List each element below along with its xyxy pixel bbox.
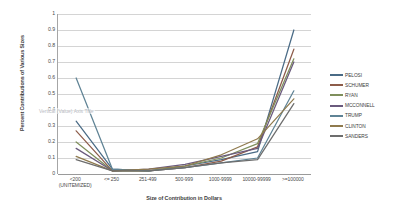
legend-item-mcconnell[interactable]: MCCONNELL — [330, 101, 394, 111]
x-tick-label: 10000-99999 — [238, 176, 274, 182]
y-tick-label: 0.8 — [33, 43, 55, 48]
legend-label: SCHUMER — [345, 83, 369, 88]
legend-item-clinton[interactable]: CLINTON — [330, 121, 394, 131]
legend-label: TRUMP — [345, 113, 362, 118]
legend-label: MCCONNELL — [345, 103, 375, 108]
legend-item-trump[interactable]: TRUMP — [330, 111, 394, 121]
y-axis-title-wrap: Percent Contributions of Various Sizes — [10, 20, 30, 170]
gridline — [58, 174, 311, 175]
legend: PELOSISCHUMERRYANMCCONNELLTRUMPCLINTONSA… — [330, 70, 394, 141]
legend-item-ryan[interactable]: RYAN — [330, 90, 394, 100]
x-tick-label: 500-999 — [166, 176, 202, 182]
y-tick-label: 0.3 — [33, 123, 55, 128]
y-axis-title: Percent Contributions of Various Sizes — [19, 8, 25, 158]
legend-swatch-icon — [330, 115, 343, 117]
x-tick-label: <= 250 — [93, 176, 129, 182]
legend-swatch-icon — [330, 94, 343, 96]
y-axis-tick-labels: 00.10.20.30.40.50.60.70.80.91 — [29, 14, 55, 174]
line-chart: Percent Contributions of Various Sizes 0… — [0, 0, 397, 213]
y-tick-label: 1 — [33, 11, 55, 16]
legend-label: PELOSI — [345, 73, 362, 78]
y-tick-label: 0.2 — [33, 139, 55, 144]
legend-swatch-icon — [330, 135, 343, 137]
series-line-pelosi — [76, 30, 294, 171]
series-lines — [58, 14, 312, 174]
legend-swatch-icon — [330, 125, 343, 127]
legend-item-pelosi[interactable]: PELOSI — [330, 70, 394, 80]
y-tick-label: 0.5 — [33, 91, 55, 96]
y-tick-label: 0.7 — [33, 59, 55, 64]
y-tick-label: 0 — [33, 171, 55, 176]
series-line-trump — [76, 78, 294, 171]
vertical-axis-title-placeholder: Vertical (Value) Axis Title — [38, 108, 95, 114]
legend-item-sanders[interactable]: SANDERS — [330, 131, 394, 141]
x-tick-label: 1000-9999 — [202, 176, 238, 182]
legend-swatch-icon — [330, 74, 343, 76]
legend-item-schumer[interactable]: SCHUMER — [330, 80, 394, 90]
legend-label: RYAN — [345, 93, 358, 98]
plot-area — [57, 14, 311, 174]
x-tick-label: 251-499 — [130, 176, 166, 182]
legend-label: SANDERS — [345, 134, 368, 139]
y-tick-label: 0.1 — [33, 155, 55, 160]
legend-label: CLINTON — [345, 124, 366, 129]
legend-swatch-icon — [330, 84, 343, 86]
x-axis-title: Size of Contribution in Dollars — [57, 195, 311, 201]
legend-swatch-icon — [330, 105, 343, 107]
x-tick-label: <200(UNITEMIZED) — [57, 176, 93, 188]
y-tick-label: 0.6 — [33, 75, 55, 80]
y-tick-label: 0.9 — [33, 27, 55, 32]
x-tick-label: >=100000 — [275, 176, 311, 182]
